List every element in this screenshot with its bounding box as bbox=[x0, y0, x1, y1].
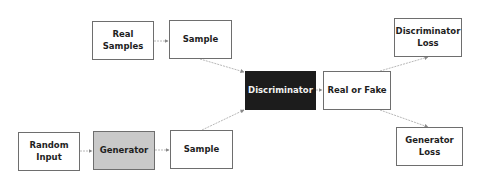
discriminator-loss-node: Discriminator Loss bbox=[394, 18, 462, 57]
edge-real_or_fake-to-generator_loss bbox=[380, 110, 428, 127]
discriminator-node: Discriminator bbox=[245, 71, 316, 110]
edge-real_or_fake-to-discriminator_loss bbox=[380, 57, 428, 71]
edge-sample_top-to-discriminator bbox=[200, 59, 244, 72]
generator-node: Generator bbox=[93, 131, 155, 170]
sample-top-node: Sample bbox=[169, 20, 232, 59]
sample-bottom-node: Sample bbox=[170, 130, 233, 169]
random-input-node: Random Input bbox=[18, 132, 80, 171]
real-samples-node: Real Samples bbox=[92, 21, 154, 60]
generator-loss-node: Generator Loss bbox=[396, 127, 463, 166]
gan-diagram: Real Samples Sample Random Input Generat… bbox=[0, 0, 481, 184]
real-or-fake-node: Real or Fake bbox=[323, 71, 391, 110]
edge-sample_bottom-to-discriminator bbox=[202, 110, 244, 130]
